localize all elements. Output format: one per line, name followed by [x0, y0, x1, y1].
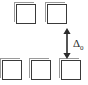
spacing-arrow	[61, 28, 73, 59]
square-top-0	[16, 4, 36, 24]
delta-label: Δ0	[73, 38, 84, 52]
double-headed-arrow-icon	[61, 28, 73, 59]
figure-canvas: Δ0	[0, 0, 88, 85]
square-top-1	[47, 4, 67, 24]
square-bottom-0	[2, 60, 22, 80]
square-bottom-1	[31, 60, 51, 80]
square-bottom-2	[61, 60, 81, 80]
delta-subscript: 0	[80, 44, 84, 52]
